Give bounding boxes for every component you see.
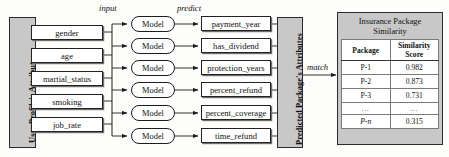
cell-package: P-1 bbox=[342, 61, 391, 75]
predicted-attribute-percent-coverage: percent_coverage bbox=[201, 105, 271, 120]
match-flow-label: match bbox=[307, 62, 328, 72]
predicted-attribute-payment-year: payment_year bbox=[201, 16, 271, 31]
similarity-table: Package Similarity Score P-1 0.982 P-2 0… bbox=[341, 39, 439, 129]
predicted-package-panel-label: Predicted Package's Attributes bbox=[294, 33, 304, 145]
predicted-attribute-protection-years: protection_years bbox=[201, 60, 271, 75]
cell-package: P-2 bbox=[342, 75, 391, 89]
predicted-attribute-label: has_dividend bbox=[213, 41, 259, 51]
insurance-package-similarity-panel: Insurance Package Similarity Package Sim… bbox=[337, 12, 443, 145]
predicted-attribute-label: percent_coverage bbox=[206, 108, 267, 118]
cell-score: … bbox=[390, 103, 439, 115]
table-row-ellipsis: … … bbox=[342, 103, 439, 115]
similarity-title-line2: Similarity bbox=[341, 27, 439, 37]
predicted-attribute-label: protection_years bbox=[207, 63, 264, 73]
model-label: Model bbox=[142, 64, 164, 73]
user-attribute-label: martial_status bbox=[43, 74, 91, 84]
table-row: P-n 0.315 bbox=[342, 115, 439, 129]
user-attribute-label: job_rate bbox=[53, 120, 81, 130]
model-box-4: Model bbox=[131, 82, 175, 98]
user-attribute-label: smoking bbox=[52, 97, 82, 107]
cell-package: P-3 bbox=[342, 89, 391, 103]
cell-score: 0.873 bbox=[390, 75, 439, 89]
model-label: Model bbox=[142, 42, 164, 51]
predicted-attribute-label: payment_year bbox=[212, 19, 261, 29]
cell-package: … bbox=[342, 103, 391, 115]
predicted-attribute-has-dividend: has_dividend bbox=[201, 38, 271, 53]
predicted-attribute-label: percent_refund bbox=[210, 85, 262, 95]
user-attribute-martial-status: martial_status bbox=[31, 71, 103, 86]
user-attribute-smoking: smoking bbox=[31, 94, 103, 109]
predicted-attribute-percent-refund: percent_refund bbox=[201, 82, 271, 97]
input-flow-label: input bbox=[99, 3, 117, 13]
table-row: P-3 0.731 bbox=[342, 89, 439, 103]
predicted-attribute-time-refund: time_refund bbox=[201, 128, 271, 143]
user-attribute-job-rate: job_rate bbox=[31, 117, 103, 132]
cell-score: 0.982 bbox=[390, 61, 439, 75]
table-row: P-1 0.982 bbox=[342, 61, 439, 75]
model-label: Model bbox=[142, 86, 164, 95]
table-header-row: Package Similarity Score bbox=[342, 40, 439, 61]
user-attribute-label: gender bbox=[55, 28, 78, 38]
header-similarity-score: Similarity Score bbox=[390, 40, 439, 61]
model-label: Model bbox=[142, 109, 164, 118]
header-package: Package bbox=[342, 40, 391, 61]
user-attribute-gender: gender bbox=[31, 25, 103, 40]
pipeline-diagram: User Profile's Attributes gender age mar… bbox=[0, 0, 449, 157]
model-box-1: Model bbox=[131, 16, 175, 32]
model-box-2: Model bbox=[131, 38, 175, 54]
user-attribute-label: age bbox=[61, 51, 73, 61]
similarity-panel-title: Insurance Package Similarity bbox=[341, 16, 439, 39]
cell-score: 0.731 bbox=[390, 89, 439, 103]
model-box-6: Model bbox=[131, 128, 175, 144]
model-label: Model bbox=[142, 132, 164, 141]
model-box-5: Model bbox=[131, 105, 175, 121]
cell-score: 0.315 bbox=[390, 115, 439, 129]
table-row: P-2 0.873 bbox=[342, 75, 439, 89]
predict-flow-label: predict bbox=[177, 3, 201, 13]
predicted-attribute-label: time_refund bbox=[215, 131, 257, 141]
cell-package: P-n bbox=[342, 115, 391, 129]
header-score-line2: Score bbox=[391, 50, 439, 59]
similarity-title-line1: Insurance Package bbox=[341, 17, 439, 27]
model-label: Model bbox=[142, 20, 164, 29]
header-score-line1: Similarity bbox=[391, 41, 439, 50]
user-attribute-age: age bbox=[31, 48, 103, 63]
model-box-3: Model bbox=[131, 60, 175, 76]
